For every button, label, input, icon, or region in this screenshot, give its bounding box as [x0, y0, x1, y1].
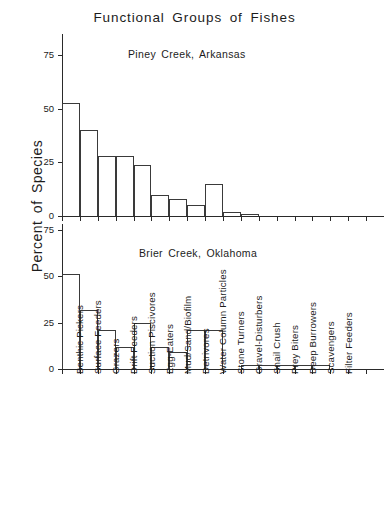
bar [223, 212, 241, 216]
x-tick [223, 217, 224, 221]
x-tick [277, 217, 278, 221]
panel-piney-creek: 0255075 [62, 34, 384, 218]
figure: Functional Groups of Fishes Percent of S… [0, 0, 389, 521]
x-axis-label-stone-turners: Stone Turners [235, 311, 246, 374]
x-tick [62, 217, 63, 221]
x-tick [295, 217, 296, 221]
x-tick [187, 217, 188, 221]
y-tick-label-0: 0 [49, 363, 54, 374]
bar [205, 184, 223, 216]
x-tick [259, 217, 260, 221]
x-axis-label-suction-piscivores: Suction Piscivores [146, 292, 157, 374]
x-axis-label-benthic-pickers: Benthic Pickers [74, 305, 85, 374]
x-tick [80, 217, 81, 221]
x-axis-category-labels: Benthic PickersSurface FeedersGrazersDri… [62, 374, 384, 504]
bar [151, 195, 169, 216]
bar [80, 130, 98, 216]
x-axis-label-filter-feeders: Filter Feeders [343, 312, 354, 374]
x-tick [348, 217, 349, 221]
x-tick [241, 217, 242, 221]
bar [169, 199, 187, 216]
y-tick-75: 75 [58, 55, 63, 56]
bar [116, 156, 134, 216]
y-tick-label-50: 50 [43, 103, 54, 114]
x-axis-label-drift-feeders: Drift Feeders [128, 316, 139, 374]
x-axis-label-snail-crush: Snail Crush [271, 322, 282, 374]
x-axis-label-grazers: Grazers [110, 338, 121, 374]
chart-title: Functional Groups of Fishes [0, 10, 389, 25]
x-tick [366, 217, 367, 221]
bar [98, 156, 116, 216]
x-tick [116, 217, 117, 221]
y-tick-label-25: 25 [43, 317, 54, 328]
y-tick-label-25: 25 [43, 156, 54, 167]
bar [241, 214, 259, 216]
y-tick-label-75: 75 [43, 224, 54, 235]
bar [62, 103, 80, 216]
x-axis-label-prey-biters: Prey Biters [289, 325, 300, 374]
x-axis-label-deep-burrowers: Deep Burrowers [307, 302, 318, 374]
x-tick [151, 217, 152, 221]
y-tick-75: 75 [58, 230, 63, 231]
bar [134, 165, 152, 216]
x-axis-label-gravel-disturbers: Gravel-Disturbers [253, 296, 264, 374]
x-axis-label-mud-sand-biofilm: Mud/Sand/Biofilm [182, 296, 193, 374]
x-axis-label-egg-eaters: Egg-Eaters [164, 324, 175, 374]
x-tick [205, 217, 206, 221]
y-tick-label-50: 50 [43, 270, 54, 281]
y-tick-label-75: 75 [43, 49, 54, 60]
x-axis-label-surface-feeders: Surface Feeders [92, 300, 103, 374]
x-axis-label-water-column-particles: Water Column Particles [217, 269, 228, 374]
x-axis-label-detrivores: Detrivores [200, 328, 211, 374]
x-tick [98, 217, 99, 221]
x-axis-label-scavengers: Scavengers [325, 321, 336, 374]
x-tick [330, 217, 331, 221]
bar [187, 205, 205, 216]
x-tick [169, 217, 170, 221]
x-tick [134, 217, 135, 221]
x-tick [312, 217, 313, 221]
y-tick-label-0: 0 [49, 210, 54, 221]
